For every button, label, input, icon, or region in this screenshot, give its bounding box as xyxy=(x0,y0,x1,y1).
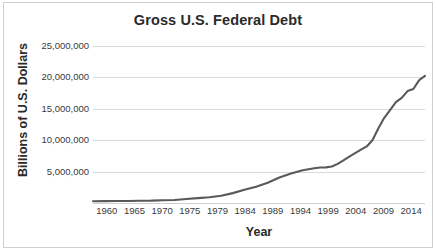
x-axis-tick-label: 1975 xyxy=(179,206,200,216)
x-axis-tick-label: 1999 xyxy=(318,206,339,216)
x-axis-tick-label: 1960 xyxy=(96,206,117,216)
y-axis-tick-label: 20,000,000 xyxy=(17,72,89,82)
debt-line-series xyxy=(93,46,425,203)
x-axis-tick-label: 2004 xyxy=(345,206,366,216)
plot-area xyxy=(93,46,425,203)
x-axis-tick-label: 1979 xyxy=(207,206,228,216)
chart-screenshot: Gross U.S. Federal Debt Billions of U.S.… xyxy=(0,0,436,251)
x-axis-tick-label: 2014 xyxy=(401,206,422,216)
series-polyline xyxy=(93,76,425,201)
y-axis-tick-label: 25,000,000 xyxy=(17,41,89,51)
x-axis-tick-label: 1970 xyxy=(152,206,173,216)
y-axis-tick-label: 5,000,000 xyxy=(17,167,89,177)
x-axis-tick-label: 2009 xyxy=(373,206,394,216)
gridline-baseline xyxy=(93,203,425,204)
x-axis-tick-labels: 1960196519701975197919841989199419992004… xyxy=(93,206,425,220)
chart-title: Gross U.S. Federal Debt xyxy=(0,12,436,28)
y-axis-tick-label: 10,000,000 xyxy=(17,135,89,145)
y-axis-tick-labels: 5,000,00010,000,00015,000,00020,000,0002… xyxy=(14,46,89,203)
x-axis-tick-label: 1984 xyxy=(235,206,256,216)
y-axis-tick-label: 15,000,000 xyxy=(17,104,89,114)
x-axis-tick-label: 1994 xyxy=(290,206,311,216)
x-axis-title: Year xyxy=(93,225,425,239)
x-axis-tick-label: 1989 xyxy=(262,206,283,216)
x-axis-tick-label: 1965 xyxy=(124,206,145,216)
